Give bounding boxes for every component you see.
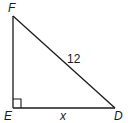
base-length-label: x xyxy=(59,109,67,123)
triangle-diagram: F E D 12 x xyxy=(0,0,128,123)
side-FD-hypotenuse xyxy=(13,16,115,108)
right-angle-marker xyxy=(13,99,21,108)
vertex-label-D: D xyxy=(114,109,123,123)
vertex-label-E: E xyxy=(4,109,13,123)
vertex-label-F: F xyxy=(8,1,16,15)
hypotenuse-length-label: 12 xyxy=(67,52,81,66)
